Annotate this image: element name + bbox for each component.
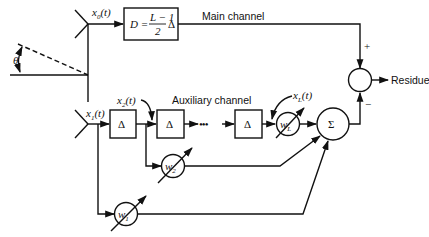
minus-sign: − — [365, 98, 371, 110]
svg-text:Δ: Δ — [168, 18, 175, 30]
main-channel-line — [178, 24, 360, 68]
xL-label: xL(t) — [292, 89, 313, 104]
x0-label: x0(t) — [91, 6, 111, 21]
auxiliary-channel-label: Auxiliary channel — [172, 94, 251, 106]
svg-text:Δ: Δ — [244, 118, 251, 130]
main-antenna-icon — [75, 10, 88, 38]
x2-label: x2(t) — [116, 94, 136, 109]
svg-text:D =: D = — [129, 18, 148, 30]
delay-box-1: Δ — [110, 110, 136, 138]
delay-box-2: Δ — [157, 110, 184, 138]
residue-combiner-circle — [349, 69, 372, 92]
svg-text:Δ: Δ — [118, 118, 125, 130]
theta-label: θ — [13, 54, 19, 66]
incidence-angle-geometry — [10, 44, 88, 75]
svg-text:Δ: Δ — [166, 118, 173, 130]
w2-to-sigma-line — [185, 136, 320, 166]
adaptive-array-diagram: θ x0(t) D = L − 1 2 Δ Main channel + Res… — [0, 0, 429, 237]
weight-wL: wL — [276, 108, 304, 138]
plus-sign: + — [364, 40, 370, 52]
residue-label: Residue — [391, 74, 429, 86]
svg-text:Σ: Σ — [328, 118, 334, 130]
summer-sigma: Σ — [317, 108, 349, 140]
svg-text:2: 2 — [155, 25, 161, 37]
x1-label: x1(t) — [85, 107, 105, 122]
delay-box-last: Δ — [235, 110, 262, 138]
sigma-out-line — [349, 93, 360, 124]
main-delay-box: D = L − 1 2 Δ — [124, 8, 178, 40]
ellipsis: ••• — [199, 118, 209, 130]
x2-pointer — [141, 100, 152, 120]
main-channel-label: Main channel — [202, 10, 264, 22]
